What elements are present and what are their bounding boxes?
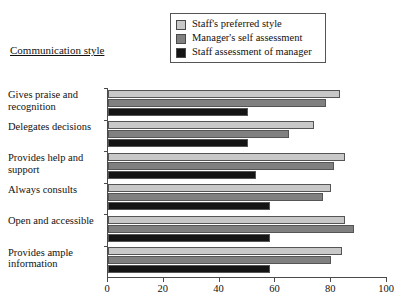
x-axis-tick <box>107 278 108 282</box>
x-axis-label: 100 <box>378 283 394 295</box>
bar <box>108 108 248 116</box>
bar <box>108 265 270 273</box>
bar <box>108 225 354 233</box>
x-axis-label: 40 <box>213 283 224 295</box>
legend-item: Manager's self assessment <box>176 32 320 44</box>
y-axis-label: Delegates decisions <box>8 121 103 133</box>
bar <box>108 171 256 179</box>
bar-group <box>108 120 387 152</box>
y-axis-labels: Gives praise and recognitionDelegates de… <box>0 88 103 277</box>
legend-item: Staff's preferred style <box>176 18 320 30</box>
chart-axis-title: Communication style <box>10 44 104 56</box>
bar <box>108 216 345 224</box>
x-axis-tick <box>330 278 331 282</box>
x-axis-label: 60 <box>269 283 280 295</box>
bar-group <box>108 151 387 183</box>
x-axis-tick <box>386 278 387 282</box>
x-axis-tick <box>274 278 275 282</box>
bar <box>108 184 331 192</box>
bar <box>108 234 270 242</box>
legend-label-manager-self: Manager's self assessment <box>192 32 302 44</box>
y-axis-label: Provides ample information <box>8 247 103 270</box>
y-axis-label: Provides help and support <box>8 152 103 175</box>
bar <box>108 162 334 170</box>
x-axis-labels: 020406080100 <box>0 283 410 299</box>
y-axis-label: Gives praise and recognition <box>8 89 103 112</box>
bar <box>108 193 323 201</box>
bar-group <box>108 246 387 278</box>
legend-label-staff-assessment: Staff assessment of manager <box>192 46 312 58</box>
plot-area <box>107 88 387 278</box>
bar-group <box>108 214 387 246</box>
x-axis-label: 0 <box>104 283 109 295</box>
bar <box>108 153 345 161</box>
x-axis-label: 20 <box>158 283 169 295</box>
legend-item: Staff assessment of manager <box>176 46 320 58</box>
bar <box>108 90 340 98</box>
x-axis-label: 80 <box>325 283 336 295</box>
legend-swatch-staff-preferred <box>176 20 186 30</box>
chart-legend: Staff's preferred style Manager's self a… <box>170 13 326 63</box>
legend-swatch-manager-self <box>176 34 186 44</box>
x-axis-tick <box>163 278 164 282</box>
bar-group <box>108 88 387 120</box>
bar <box>108 121 314 129</box>
y-axis-label: Open and accessible <box>8 215 103 227</box>
legend-swatch-staff-assessment <box>176 48 186 58</box>
bar-group <box>108 183 387 215</box>
x-axis-tick <box>219 278 220 282</box>
bar <box>108 99 326 107</box>
y-axis-label: Always consults <box>8 184 103 196</box>
legend-label-staff-preferred: Staff's preferred style <box>192 18 282 30</box>
bar <box>108 130 289 138</box>
bar <box>108 202 270 210</box>
bar <box>108 256 331 264</box>
bar <box>108 139 248 147</box>
bar <box>108 247 342 255</box>
